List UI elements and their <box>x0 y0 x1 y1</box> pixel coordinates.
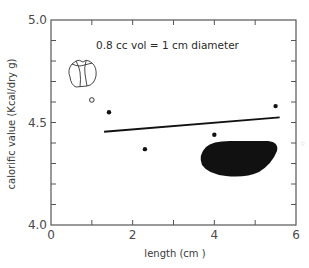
x-axis-label: length (cm ) <box>144 248 205 259</box>
y-axis-label: calorific value (Kcal/dry g) <box>6 58 17 189</box>
seed-silhouette-icon <box>201 141 278 177</box>
margin-mark: ○ <box>300 139 305 148</box>
data-point <box>143 147 147 151</box>
x-tick-label: 2 <box>129 228 137 242</box>
open-data-point <box>90 98 95 103</box>
y-tick-label: 4.5 <box>28 116 47 130</box>
y-tick-label: 4.0 <box>28 218 47 232</box>
regression-line <box>104 117 280 131</box>
volume-diameter-annotation: 0.8 cc vol = 1 cm diameter <box>96 39 240 51</box>
y-tick-label: 5.0 <box>28 13 47 27</box>
calorific-value-chart: 4.04.55.0 0246 length (cm ) calorific va… <box>0 0 309 268</box>
data-point <box>273 104 277 108</box>
x-tick-label: 0 <box>47 228 55 242</box>
data-point <box>107 110 111 114</box>
data-point <box>212 133 216 137</box>
x-tick-label: 6 <box>292 228 300 242</box>
x-axis-ticks: 0246 <box>47 20 300 242</box>
x-tick-label: 4 <box>211 228 219 242</box>
seed-drawing-icon <box>69 60 96 87</box>
